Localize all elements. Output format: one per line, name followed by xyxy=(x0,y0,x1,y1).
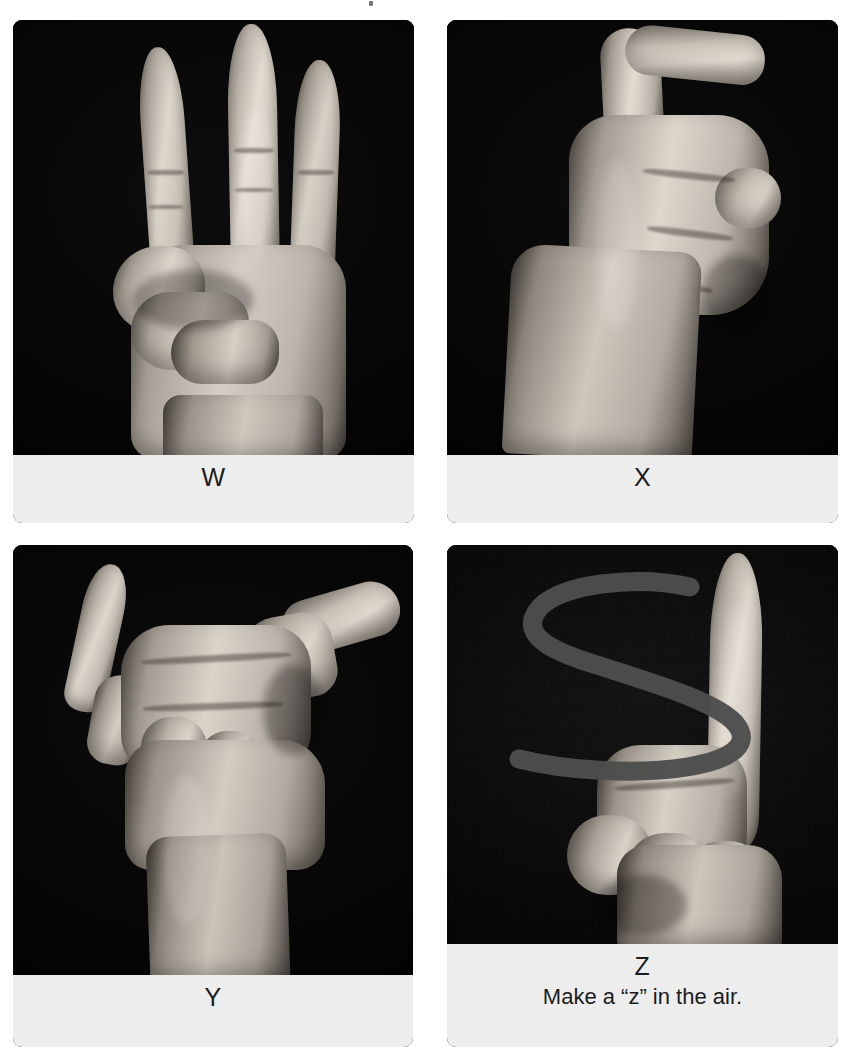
caption-z: Z Make a “z” in the air. xyxy=(447,944,838,1047)
alphabet-card-x[interactable]: X xyxy=(447,20,838,523)
alphabet-card-w[interactable]: W xyxy=(13,20,414,523)
hand-photo-x xyxy=(447,20,838,455)
letter-label-y: Y xyxy=(204,982,221,1013)
caption-y: Y xyxy=(13,975,413,1047)
hand-photo-w xyxy=(13,20,414,455)
print-speck-artifact xyxy=(369,1,373,6)
letter-label-x: X xyxy=(634,462,651,493)
page-root: W xyxy=(0,0,850,1047)
caption-w: W xyxy=(13,455,414,523)
hand-photo-y xyxy=(13,545,413,975)
alphabet-card-z[interactable]: Z Make a “z” in the air. xyxy=(447,545,838,1047)
alphabet-card-y[interactable]: Y xyxy=(13,545,413,1047)
hand-photo-z xyxy=(447,545,838,944)
alphabet-card-grid: W xyxy=(13,20,838,1047)
letter-label-w: W xyxy=(201,462,225,493)
letter-label-z: Z xyxy=(635,951,651,982)
wrist xyxy=(163,395,323,455)
caption-x: X xyxy=(447,455,838,523)
letter-note-z: Make a “z” in the air. xyxy=(543,983,742,1012)
